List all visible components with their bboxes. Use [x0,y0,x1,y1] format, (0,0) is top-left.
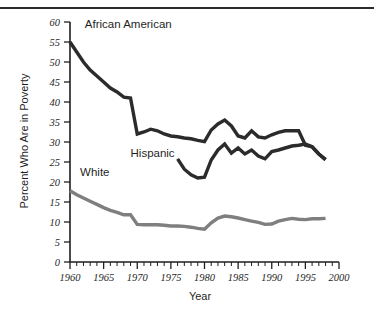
y-tick-label: 60 [50,17,61,28]
series-line-hispanic [178,144,326,178]
x-axis-tick-labels: 196019651970197519801985199019952000 [60,272,351,283]
y-tick-label: 45 [50,77,61,88]
series-label-white: White [80,166,109,178]
y-tick-label: 0 [55,257,61,268]
y-tick-label: 50 [50,57,61,68]
series-label-hispanic: Hispanic [131,147,175,159]
series-label-african-american: African American [85,18,172,30]
data-series [70,42,326,229]
y-tick-label: 5 [55,237,60,248]
poverty-rate-chart-figure: 051015202530354045505560 196019651970197… [0,0,374,319]
y-tick-label: 30 [49,137,61,148]
x-tick-label: 1975 [160,272,181,283]
y-tick-label: 55 [50,37,61,48]
x-tick-label: 1980 [194,272,216,283]
y-tick-label: 20 [50,177,61,188]
series-line-african-american [70,42,326,160]
x-tick-label: 1960 [60,272,82,283]
y-tick-label: 40 [50,97,61,108]
y-tick-label: 10 [50,217,61,228]
header-divider [0,7,374,9]
y-axis-tick-labels: 051015202530354045505560 [49,17,61,268]
y-axis-title: Percent Who Are in Poverty [18,73,30,209]
series-line-white [70,191,326,229]
y-tick-label: 15 [50,197,61,208]
line-chart: 051015202530354045505560 196019651970197… [0,0,374,319]
y-tick-label: 35 [49,117,61,128]
x-tick-label: 1985 [228,272,249,283]
x-tick-label: 1970 [127,272,149,283]
x-tick-label: 2000 [329,272,351,283]
x-tick-label: 1965 [93,272,114,283]
x-tick-label: 1995 [295,272,316,283]
x-axis-title: Year [189,290,212,302]
y-tick-label: 25 [50,157,61,168]
x-tick-label: 1990 [261,272,283,283]
